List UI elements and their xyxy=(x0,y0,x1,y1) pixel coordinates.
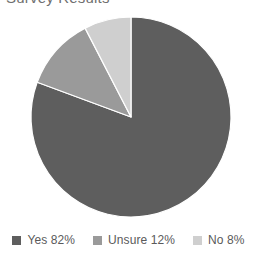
legend-item-label: No 8% xyxy=(208,233,245,247)
pie-chart xyxy=(0,0,257,228)
pie-chart-svg xyxy=(0,0,257,228)
legend-item: Yes 82% xyxy=(12,233,75,247)
chart-legend: Yes 82%Unsure 12%No 8% xyxy=(0,229,257,251)
legend-item-label: Yes 82% xyxy=(27,233,75,247)
pie-slice-group xyxy=(31,17,231,217)
legend-item: Unsure 12% xyxy=(93,233,175,247)
legend-item-label: Unsure 12% xyxy=(108,233,175,247)
legend-swatch-icon xyxy=(12,236,21,245)
legend-swatch-icon xyxy=(193,236,202,245)
legend-item: No 8% xyxy=(193,233,245,247)
legend-swatch-icon xyxy=(93,236,102,245)
